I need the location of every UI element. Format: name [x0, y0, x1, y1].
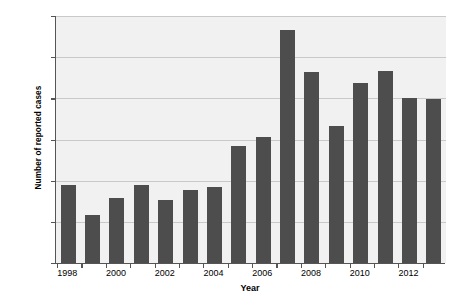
bar-chart: Number of reported cases 02,0004,0006,00…	[0, 0, 459, 306]
x-tick-label: 2004	[193, 268, 233, 278]
bar	[378, 71, 393, 263]
bar	[158, 200, 173, 263]
x-axis-line	[55, 263, 445, 264]
bar	[61, 185, 76, 263]
bar	[134, 185, 149, 263]
x-tick-mark	[228, 263, 229, 268]
y-tick-mark	[51, 140, 56, 141]
bar	[304, 72, 319, 263]
x-tick-label: 2006	[242, 268, 282, 278]
gridline	[56, 57, 446, 58]
y-axis-title: Number of reported cases	[34, 38, 43, 238]
y-tick-mark	[51, 57, 56, 58]
x-tick-mark	[325, 263, 326, 268]
x-tick-label: 2002	[145, 268, 185, 278]
bar	[426, 99, 441, 263]
y-tick-mark	[51, 181, 56, 182]
x-tick-label: 2010	[340, 268, 380, 278]
x-tick-mark	[179, 263, 180, 268]
y-tick-mark	[51, 98, 56, 99]
bar	[109, 198, 124, 263]
x-tick-mark	[130, 263, 131, 268]
x-tick-mark	[374, 263, 375, 268]
gridline	[56, 16, 446, 17]
bar	[256, 137, 271, 263]
plot-area	[55, 16, 446, 263]
bar	[280, 30, 295, 263]
x-tick-label: 2000	[96, 268, 136, 278]
y-tick-mark	[51, 222, 56, 223]
x-tick-label: 1998	[47, 268, 87, 278]
x-tick-label: 2008	[291, 268, 331, 278]
bar	[183, 190, 198, 263]
x-tick-mark	[423, 263, 424, 268]
x-tick-label: 2012	[388, 268, 428, 278]
bar	[329, 126, 344, 263]
bar	[353, 83, 368, 263]
y-tick-mark	[51, 16, 56, 17]
x-tick-mark	[81, 263, 82, 268]
bar	[85, 215, 100, 263]
x-axis-title: Year	[55, 283, 445, 293]
bar	[207, 187, 222, 263]
x-tick-mark	[276, 263, 277, 268]
bar	[231, 146, 246, 263]
bar	[402, 98, 417, 263]
